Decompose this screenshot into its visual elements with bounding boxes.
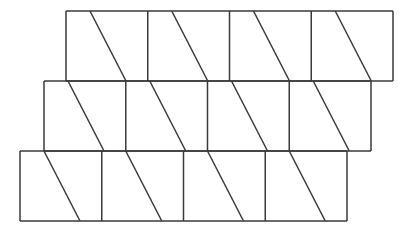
tiling-diagram bbox=[0, 0, 415, 233]
figure-canvas bbox=[0, 0, 415, 233]
